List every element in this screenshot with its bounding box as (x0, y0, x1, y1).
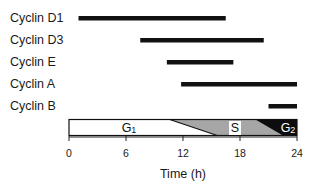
chart-canvas: G1SG2 (0, 0, 311, 189)
expression-bar (181, 82, 297, 87)
x-tick-label: 6 (114, 147, 138, 159)
cyclin-expression-chart: G1SG2 Cyclin D1Cyclin D3Cyclin ECyclin A… (0, 0, 311, 189)
expression-bar (269, 104, 298, 109)
cyclin-label: Cyclin D1 (10, 11, 64, 25)
x-axis-label: Time (h) (133, 167, 233, 181)
cyclin-label: Cyclin D3 (10, 33, 64, 47)
x-tick-label: 12 (171, 147, 195, 159)
cyclin-label: Cyclin A (10, 77, 55, 91)
expression-bar (140, 38, 264, 43)
expression-bar (167, 60, 234, 65)
expression-bar (79, 16, 226, 21)
cyclin-label: Cyclin B (10, 99, 56, 113)
cyclin-label: Cyclin E (10, 55, 56, 69)
phase-label-s: S (231, 121, 239, 135)
x-tick-label: 24 (285, 147, 309, 159)
x-tick-label: 18 (228, 147, 252, 159)
x-tick-label: 0 (57, 147, 81, 159)
